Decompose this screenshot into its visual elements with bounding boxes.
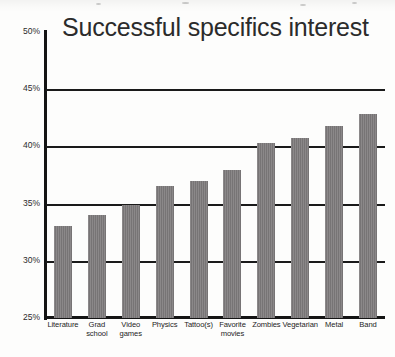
bar-series <box>46 32 385 318</box>
bar <box>54 226 72 318</box>
bar <box>190 181 208 318</box>
y-axis-tick-label: 50% <box>8 27 40 36</box>
bar <box>291 138 309 318</box>
x-axis-label: Band <box>346 321 390 330</box>
x-axis-label-line: Band <box>346 321 390 330</box>
bar <box>359 114 377 318</box>
bar-slot <box>325 32 343 318</box>
bar-chart: Successful specifics interest 50%45%40%3… <box>0 0 395 357</box>
bar-slot <box>122 32 140 318</box>
bar-slot <box>257 32 275 318</box>
x-axis-category-labels: LiteratureGradschoolVideogamesPhysicsTat… <box>46 321 385 355</box>
bar <box>223 170 241 318</box>
y-axis-tick-label: 35% <box>8 199 40 208</box>
bar-slot <box>54 32 72 318</box>
bar <box>325 126 343 318</box>
bar-slot <box>223 32 241 318</box>
y-axis-tick-label: 25% <box>8 313 40 322</box>
y-axis-tick-label: 30% <box>8 256 40 265</box>
bar-slot <box>359 32 377 318</box>
x-axis-label-line: movies <box>211 330 255 339</box>
x-axis-label-line: games <box>109 330 153 339</box>
scan-speck <box>96 3 101 5</box>
y-axis-tick-label: 45% <box>8 84 40 93</box>
bar-slot <box>291 32 309 318</box>
bar <box>156 186 174 318</box>
bar <box>122 205 140 318</box>
scan-artifact <box>0 0 395 12</box>
bar <box>88 215 106 318</box>
scan-speck <box>300 4 306 6</box>
scan-speck <box>182 2 189 4</box>
bar <box>257 143 275 318</box>
bar-slot <box>190 32 208 318</box>
scan-speck <box>352 2 357 4</box>
bar-slot <box>156 32 174 318</box>
plot-area <box>46 32 385 318</box>
y-axis-tick-label: 40% <box>8 141 40 150</box>
bar-slot <box>88 32 106 318</box>
